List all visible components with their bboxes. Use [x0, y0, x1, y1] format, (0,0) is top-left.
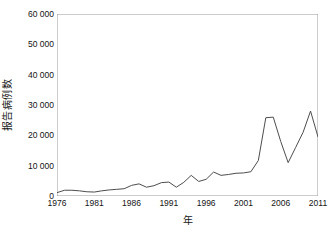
x-axis-tick-label: 2011: [309, 199, 327, 208]
plot-svg: [57, 14, 318, 196]
x-axis-tick-label: 2001: [234, 199, 253, 208]
data-series-line: [57, 111, 318, 193]
y-axis-tick-label: 40 000: [14, 70, 54, 79]
y-axis-tick-label: 30 000: [14, 101, 54, 110]
y-axis-tick-label: 50 000: [14, 40, 54, 49]
line-chart-figure: 报告病例数 010 00020 00030 00040 00050 00060 …: [0, 0, 335, 238]
y-axis-tick-label: 20 000: [14, 131, 54, 140]
x-axis-tick-label: 1981: [85, 199, 104, 208]
x-axis-tick-label: 2006: [271, 199, 290, 208]
y-axis-tick-label: 10 000: [14, 161, 54, 170]
x-axis-tick-label: 1991: [159, 199, 178, 208]
y-axis-title-label: 报告病例数: [3, 79, 13, 132]
x-axis-tick-label: 1996: [197, 199, 216, 208]
x-axis-tick-label: 1986: [122, 199, 141, 208]
y-axis-tick-labels: 010 00020 00030 00040 00050 00060 000: [14, 0, 54, 210]
x-axis-tick-label: 1976: [48, 199, 67, 208]
y-axis-tick-label: 60 000: [14, 10, 54, 19]
plot-area: [57, 14, 318, 196]
x-axis-title: 年: [57, 216, 318, 226]
x-axis-tick-labels: 19761981198619911996200120062011: [57, 199, 318, 213]
